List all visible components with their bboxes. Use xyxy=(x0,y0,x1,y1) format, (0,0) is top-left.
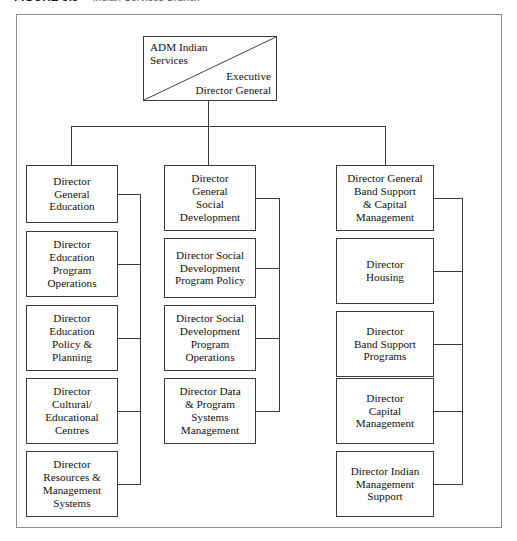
connector-root-stem xyxy=(208,101,209,126)
node-edu-resources-mgmt-label: Director Resources & Management Systems xyxy=(43,458,101,510)
node-dg-social-development[interactable]: Director General Social Development xyxy=(164,165,256,231)
node-bs-indian-mgmt-support[interactable]: Director Indian Management Support xyxy=(336,451,434,517)
node-sd-data-systems[interactable]: Director Data & Program Systems Manageme… xyxy=(164,378,256,444)
connector-stub-bs-indian-mgmt-support xyxy=(434,484,463,485)
connector-stub-sd-program-operations xyxy=(256,338,280,339)
connector-stub-bs-band-support-programs xyxy=(434,344,463,345)
node-dg-band-support[interactable]: Director General Band Support & Capital … xyxy=(336,165,434,231)
node-edu-resources-mgmt[interactable]: Director Resources & Management Systems xyxy=(26,451,118,517)
node-edu-cultural-centres-label: Director Cultural/ Educational Centres xyxy=(45,385,98,437)
connector-stub-edu-cultural-centres xyxy=(118,411,141,412)
node-edu-program-operations-label: Director Education Program Operations xyxy=(47,238,96,290)
node-dg-education-label: Director General Education xyxy=(49,175,94,214)
connector-top-bus xyxy=(71,126,386,127)
node-sd-data-systems-label: Director Data & Program Systems Manageme… xyxy=(179,385,240,437)
root-bottom-label: Executive Director General xyxy=(196,70,271,97)
connector-stub-dg-social-development xyxy=(256,198,280,199)
connector-rail-education xyxy=(140,194,141,484)
connector-rail-social-development xyxy=(279,198,280,411)
connector-stub-sd-data-systems xyxy=(256,411,280,412)
node-bs-housing-label: Director Housing xyxy=(366,258,404,284)
node-sd-program-operations-label: Director Social Development Program Oper… xyxy=(176,312,244,364)
node-edu-program-operations[interactable]: Director Education Program Operations xyxy=(26,231,118,297)
figure-page: FIGURE 3.3Indian Services Branch ADM Ind… xyxy=(0,0,517,541)
node-edu-policy-planning[interactable]: Director Education Policy & Planning xyxy=(26,305,118,371)
connector-stub-edu-resources-mgmt xyxy=(118,484,141,485)
org-chart: ADM Indian Services Executive Director G… xyxy=(0,0,517,541)
connector-rail-band-support xyxy=(462,198,463,484)
node-dg-education[interactable]: Director General Education xyxy=(26,165,118,223)
connector-stub-edu-policy-planning xyxy=(118,338,141,339)
connector-drop-social-development xyxy=(208,126,209,165)
node-sd-program-policy[interactable]: Director Social Development Program Poli… xyxy=(164,238,256,298)
node-sd-program-operations[interactable]: Director Social Development Program Oper… xyxy=(164,305,256,371)
node-edu-policy-planning-label: Director Education Policy & Planning xyxy=(49,312,94,364)
root-top-label: ADM Indian Services xyxy=(150,41,207,68)
node-sd-program-policy-label: Director Social Development Program Poli… xyxy=(175,249,245,288)
node-bs-band-support-programs-label: Director Band Support Programs xyxy=(354,325,416,364)
node-edu-cultural-centres[interactable]: Director Cultural/ Educational Centres xyxy=(26,378,118,444)
node-dg-social-development-label: Director General Social Development xyxy=(180,172,240,224)
connector-stub-dg-education xyxy=(118,194,141,195)
connector-stub-sd-program-policy xyxy=(256,268,280,269)
connector-stub-dg-band-support xyxy=(434,198,463,199)
connector-stub-bs-housing xyxy=(434,271,463,272)
node-bs-indian-mgmt-support-label: Director Indian Management Support xyxy=(351,465,420,504)
node-bs-capital-management[interactable]: Director Capital Management xyxy=(336,378,434,444)
node-bs-band-support-programs[interactable]: Director Band Support Programs xyxy=(336,311,434,377)
node-bs-capital-management-label: Director Capital Management xyxy=(356,392,414,431)
connector-drop-education xyxy=(71,126,72,165)
node-root[interactable]: ADM Indian Services Executive Director G… xyxy=(143,36,277,101)
connector-stub-bs-capital-management xyxy=(434,411,463,412)
node-dg-band-support-label: Director General Band Support & Capital … xyxy=(347,172,422,224)
connector-drop-band-support xyxy=(385,126,386,165)
connector-stub-edu-program-operations xyxy=(118,264,141,265)
node-bs-housing[interactable]: Director Housing xyxy=(336,238,434,304)
